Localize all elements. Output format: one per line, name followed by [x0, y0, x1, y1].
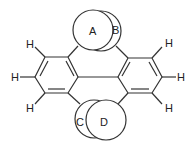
hydrogen-label: H — [26, 38, 34, 50]
hydrogen-label: H — [165, 37, 173, 49]
label-a: A — [89, 25, 97, 37]
left-benzene-ring — [35, 57, 78, 93]
label-b: B — [112, 24, 119, 36]
molecule-diagram: A B C D H H H H H H — [0, 0, 196, 146]
right-benzene-ring — [118, 58, 162, 93]
hydrogen-label: H — [26, 102, 34, 114]
label-c: C — [76, 116, 84, 128]
hydrogen-label: H — [177, 71, 185, 83]
label-d: D — [100, 116, 108, 128]
hydrogen-label: H — [165, 102, 173, 114]
hydrogen-label: H — [11, 71, 19, 83]
